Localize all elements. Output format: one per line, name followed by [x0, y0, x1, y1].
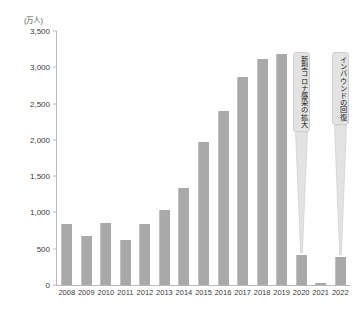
y-axis-tick-mark: [53, 67, 57, 68]
bar-2008: [61, 224, 72, 285]
x-axis-label-2016: 2016: [215, 288, 232, 297]
y-axis-unit-label: (万人): [24, 14, 43, 25]
bar-2019: [276, 54, 287, 285]
inbound-recovery-callout-pointer-icon: [332, 125, 349, 255]
bar-2022: [335, 257, 346, 285]
bar-2016: [218, 111, 229, 285]
x-axis-label-2014: 2014: [176, 288, 193, 297]
x-axis-label-2018: 2018: [254, 288, 271, 297]
covid-callout-label: 新型コロナ感染の拡大: [293, 52, 310, 132]
bar-2012: [139, 224, 150, 285]
bar-chart: (万人) 05001,0001,5002,0002,5003,0003,5002…: [0, 0, 357, 322]
x-axis-label-2017: 2017: [234, 288, 251, 297]
y-axis-tick-label: 2,500: [0, 99, 50, 108]
x-axis-label-2009: 2009: [78, 288, 95, 297]
bar-2020: [296, 255, 307, 285]
bar-2013: [159, 210, 170, 285]
x-axis-label-2021: 2021: [312, 288, 329, 297]
y-axis-tick-label: 1,500: [0, 172, 50, 181]
x-axis-label-2013: 2013: [156, 288, 173, 297]
x-axis-label-2012: 2012: [137, 288, 154, 297]
covid-callout: 新型コロナ感染の拡大: [293, 52, 310, 253]
y-axis-tick-mark: [53, 248, 57, 249]
bar-2011: [120, 240, 131, 285]
y-axis-tick-label: 500: [0, 244, 50, 253]
bar-2014: [178, 188, 189, 285]
y-axis-tick-mark: [53, 212, 57, 213]
y-axis-tick-label: 1,000: [0, 208, 50, 217]
x-axis-label-2015: 2015: [195, 288, 212, 297]
x-axis-label-2010: 2010: [97, 288, 114, 297]
inbound-recovery-callout: インバウンドの回復: [332, 52, 349, 255]
bar-2021: [315, 283, 326, 285]
bar-2009: [81, 236, 92, 285]
bar-2015: [198, 142, 209, 285]
x-axis-label-2008: 2008: [58, 288, 75, 297]
y-axis-tick-label: 2,000: [0, 135, 50, 144]
y-axis-tick-mark: [53, 285, 57, 286]
x-axis-label-2011: 2011: [117, 288, 133, 297]
x-axis-line: [56, 285, 350, 286]
bar-2017: [237, 77, 248, 285]
y-axis-tick-label: 0: [0, 281, 50, 290]
y-axis-tick-label: 3,500: [0, 27, 50, 36]
y-axis-tick-mark: [53, 31, 57, 32]
x-axis-label-2020: 2020: [293, 288, 310, 297]
x-axis-label-2019: 2019: [273, 288, 290, 297]
x-axis-label-2022: 2022: [332, 288, 349, 297]
bar-2018: [257, 59, 268, 285]
y-axis-tick-label: 3,000: [0, 63, 50, 72]
bar-2010: [100, 223, 111, 285]
y-axis-tick-mark: [53, 176, 57, 177]
y-axis-tick-mark: [53, 103, 57, 104]
covid-callout-pointer-icon: [293, 132, 310, 253]
inbound-recovery-callout-label: インバウンドの回復: [332, 52, 349, 125]
y-axis-tick-mark: [53, 139, 57, 140]
